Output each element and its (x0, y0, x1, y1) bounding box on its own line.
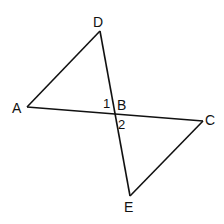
label-A: A (12, 100, 22, 116)
segment-CE (130, 121, 203, 196)
label-B: B (117, 97, 126, 113)
angle-1-label: 1 (103, 96, 110, 111)
diagram-svg: D A B C E 1 2 (0, 0, 224, 224)
label-E: E (124, 199, 133, 215)
label-D: D (93, 14, 103, 30)
label-C: C (205, 112, 215, 128)
angle-2-label: 2 (118, 117, 125, 132)
geometry-diagram: D A B C E 1 2 (0, 0, 224, 224)
segment-AD (27, 31, 100, 107)
